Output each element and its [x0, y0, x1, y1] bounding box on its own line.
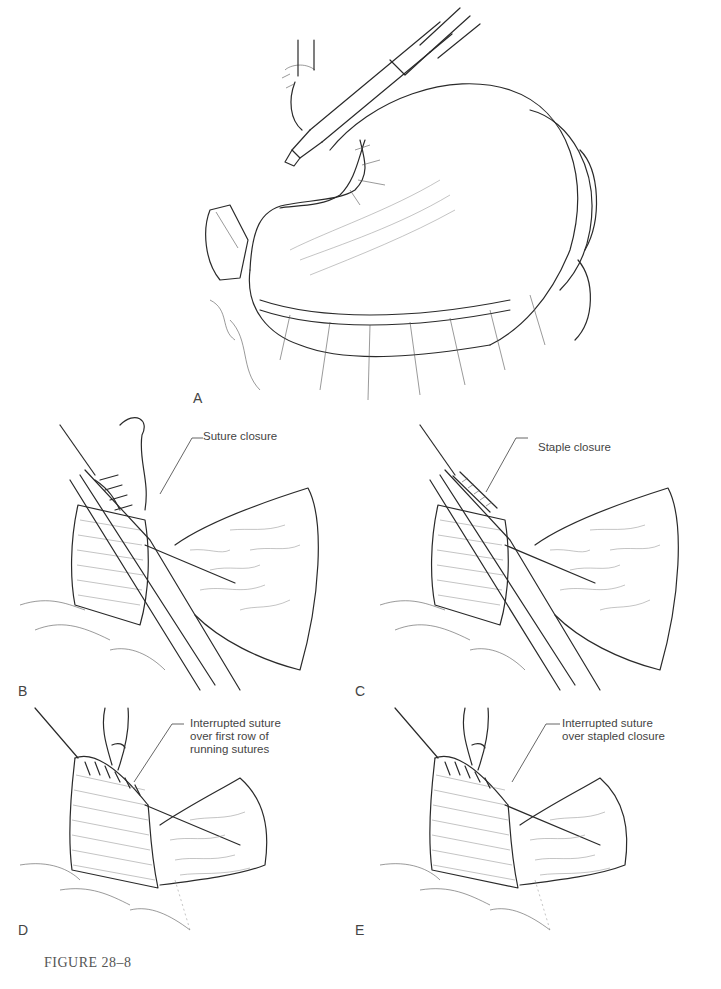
leader-line-e: [510, 718, 570, 788]
callout-suture-closure: Suture closure: [203, 430, 277, 443]
figure-caption: FIGURE 28–8: [44, 955, 132, 971]
stapler-instrument: [285, 8, 480, 166]
callout-interrupted-stapled: Interrupted suture over stapled closure: [562, 717, 665, 743]
callout-staple-closure: Staple closure: [538, 441, 611, 454]
leader-line-b: [150, 430, 210, 500]
panel-label-e: E: [355, 922, 364, 938]
suture-tails: [103, 708, 128, 770]
callout-interrupted-running: Interrupted suture over first row of run…: [190, 717, 281, 756]
needle: [145, 545, 235, 583]
leader-line-c: [478, 430, 538, 500]
needle-holder-tip: [60, 425, 95, 475]
leader-line-d: [130, 718, 190, 788]
panel-label-d: D: [18, 922, 28, 938]
stomach-illustration: [190, 0, 600, 410]
panel-a: A: [190, 0, 600, 410]
